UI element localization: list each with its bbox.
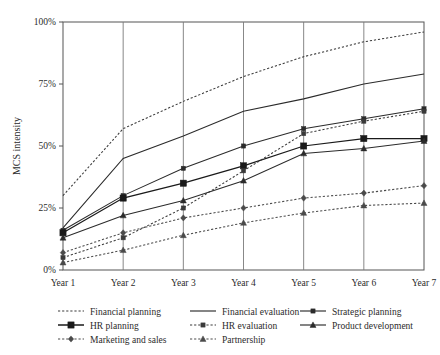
data-point-marker [362, 119, 366, 123]
legend-label: Financial planning [90, 307, 161, 317]
x-tick-label: Year 2 [111, 278, 136, 288]
legend-item-strategic-planning[interactable]: Strategic planning [300, 307, 402, 317]
data-point-marker [180, 180, 186, 186]
y-tick-label: 75% [39, 79, 57, 89]
data-point-marker [240, 163, 246, 169]
data-point-marker [302, 132, 306, 136]
legend-label: Marketing and sales [90, 335, 167, 345]
legend-label: Product development [332, 321, 413, 331]
legend-item-hr-evaluation[interactable]: HR evaluation [190, 321, 277, 331]
mcs-intensity-line-chart: 0%25%50%75%100%MCS intensityYear 1Year 2… [0, 0, 440, 355]
legend-label: Partnership [222, 335, 266, 345]
x-axis: Year 1Year 2Year 3Year 4Year 5Year 6Year… [51, 278, 437, 288]
y-axis: 0%25%50%75%100%MCS intensity [11, 17, 63, 275]
legend-label: Financial evaluation [222, 307, 300, 317]
data-point-marker [180, 232, 186, 238]
x-tick-label: Year 7 [412, 278, 437, 288]
data-point-marker [422, 109, 426, 113]
data-point-marker [361, 135, 367, 141]
y-tick-label: 100% [34, 17, 56, 27]
legend-item-financial-evaluation[interactable]: Financial evaluation [190, 307, 300, 317]
x-tick-label: Year 5 [291, 278, 316, 288]
data-point-marker [120, 230, 125, 236]
data-point-marker [181, 206, 185, 210]
data-point-marker [120, 195, 126, 201]
data-point-marker [241, 205, 246, 211]
legend-item-financial-planning[interactable]: Financial planning [58, 307, 161, 317]
x-tick-label: Year 6 [352, 278, 377, 288]
data-point-marker [241, 220, 247, 226]
legend-item-partnership[interactable]: Partnership [190, 335, 266, 345]
data-point-marker [241, 144, 245, 148]
data-point-marker [301, 195, 306, 201]
data-point-marker [421, 183, 426, 189]
data-point-marker [200, 336, 206, 342]
data-point-marker [421, 200, 427, 206]
data-point-marker [68, 322, 74, 328]
data-point-marker [302, 127, 306, 131]
y-axis-title: MCS intensity [11, 117, 22, 175]
x-tick-label: Year 1 [51, 278, 76, 288]
data-point-marker [121, 236, 125, 240]
y-tick-label: 0% [43, 265, 56, 275]
legend-label: Strategic planning [332, 307, 402, 317]
data-point-marker [68, 336, 73, 342]
data-point-marker [201, 323, 205, 327]
data-point-marker [241, 178, 247, 184]
data-point-marker [181, 215, 186, 221]
chart-container: 0%25%50%75%100%MCS intensityYear 1Year 2… [0, 0, 440, 355]
data-point-marker [301, 143, 307, 149]
y-tick-label: 50% [39, 141, 57, 151]
data-point-marker [60, 250, 65, 256]
legend-label: HR planning [90, 321, 139, 331]
data-point-marker [181, 166, 185, 170]
legend-item-product-development[interactable]: Product development [300, 321, 413, 331]
legend: Financial planningFinancial evaluationSt… [58, 307, 413, 345]
legend-label: HR evaluation [222, 321, 277, 331]
data-point-marker [311, 309, 315, 313]
y-tick-label: 25% [39, 203, 57, 213]
x-tick-label: Year 4 [231, 278, 256, 288]
x-tick-label: Year 3 [171, 278, 196, 288]
legend-item-marketing-and-sales[interactable]: Marketing and sales [58, 335, 167, 345]
data-point-marker [361, 190, 366, 196]
data-point-marker [241, 169, 245, 173]
legend-item-hr-planning[interactable]: HR planning [58, 321, 139, 331]
